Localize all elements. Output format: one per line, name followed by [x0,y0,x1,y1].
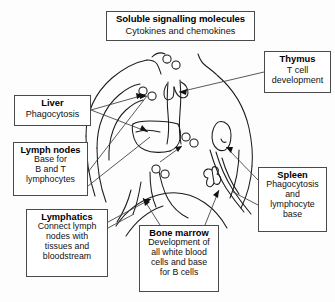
immune-system-diagram: Soluble signalling molecules Cytokines a… [0,0,335,302]
callout-subtitle-spleen: Phagocytosisandlymphocytebase [262,180,323,219]
callout-subtitle-lymph-nodes: Base forB and Tlymphocytes [17,155,84,185]
callout-spleen: Spleen Phagocytosisandlymphocytebase [258,167,327,232]
callout-title-thymus: Thymus [268,54,327,65]
callout-thymus: Thymus T celldevelopment [264,51,331,93]
callout-lymphatics: Lymphatics Connect lymphnodes withtissue… [26,209,108,277]
callout-lymph-nodes: Lymph nodes Base forB and Tlymphocytes [13,142,88,196]
callout-subtitle-soluble: Cytokines and chemokines [110,26,251,36]
callout-subtitle-lymphatics: Connect lymphnodes withtissues andbloods… [30,222,104,261]
callout-subtitle-liver: Phagocytosis [18,109,87,119]
callout-bone-marrow: Bone marrow Development ofall white bloo… [139,225,219,292]
callout-liver: Liver Phagocytosis [14,95,91,126]
callout-title-soluble: Soluble signalling molecules [110,14,251,25]
callout-subtitle-bone-marrow: Development ofall white bloodcells and b… [143,238,215,277]
callout-subtitle-thymus: T celldevelopment [268,65,327,85]
callout-soluble-signalling-molecules: Soluble signalling molecules Cytokines a… [106,11,255,41]
callout-title-liver: Liver [18,98,87,109]
